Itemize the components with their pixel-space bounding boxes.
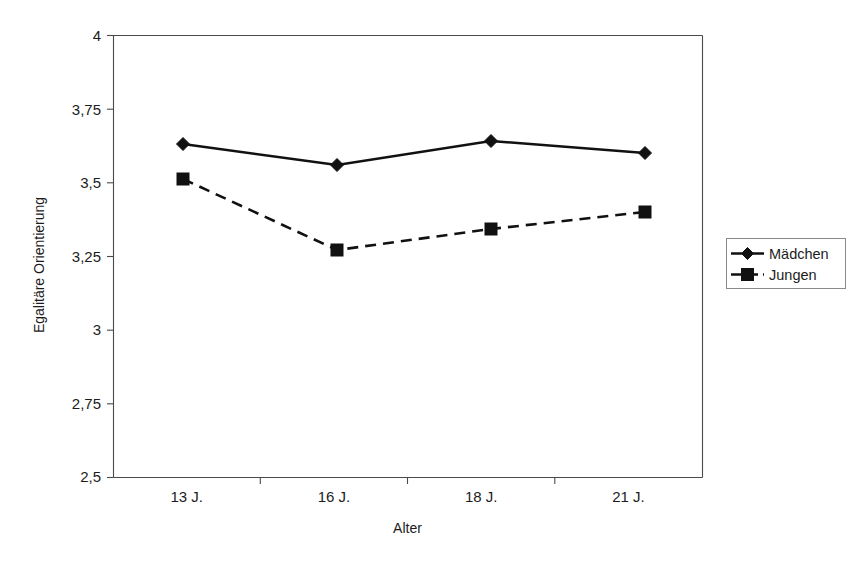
series-jungen xyxy=(177,173,651,256)
x-tick-label-18j: 18 J. xyxy=(465,488,498,505)
x-tick-marks xyxy=(260,478,555,485)
x-axis-title: Alter xyxy=(393,520,422,536)
y-tick-label-3: 3 xyxy=(93,321,101,338)
series-maedchen xyxy=(177,135,652,172)
y-tick-label-4: 4 xyxy=(93,27,101,44)
y-tick-label-3_25: 3,25 xyxy=(72,248,101,265)
y-tick-marks xyxy=(107,36,114,478)
y-tick-label-3_75: 3,75 xyxy=(72,101,101,118)
series-maedchen-point-0 xyxy=(177,138,190,151)
chart-page: 2,5 2,75 3 3,25 3,5 3,75 4 13 J. 16 J. 1… xyxy=(0,0,867,567)
x-tick-label-16j: 16 J. xyxy=(318,488,351,505)
x-tick-label-21j: 21 J. xyxy=(612,488,645,505)
legend-entry-jungen[interactable]: Jungen xyxy=(731,267,817,283)
series-jungen-point-2 xyxy=(485,223,497,235)
line-chart-figure: 2,5 2,75 3 3,25 3,5 3,75 4 13 J. 16 J. 1… xyxy=(0,0,867,567)
chart-svg: 2,5 2,75 3 3,25 3,5 3,75 4 13 J. 16 J. 1… xyxy=(0,0,867,567)
y-tick-label-2_5: 2,5 xyxy=(80,468,101,485)
series-maedchen-point-3 xyxy=(639,147,652,160)
legend-label-jungen: Jungen xyxy=(769,267,817,283)
series-jungen-point-0 xyxy=(177,173,189,185)
series-jungen-point-1 xyxy=(331,244,343,256)
chart-legend: Mädchen Jungen xyxy=(727,239,846,289)
y-axis-title: Egalitäre Orientierung xyxy=(31,197,47,333)
legend-label-maedchen: Mädchen xyxy=(769,246,829,262)
series-maedchen-line xyxy=(183,141,645,165)
series-jungen-point-3 xyxy=(639,206,651,218)
series-maedchen-point-2 xyxy=(485,135,498,148)
series-maedchen-point-1 xyxy=(331,159,344,172)
series-jungen-line xyxy=(183,179,645,250)
x-tick-label-13j: 13 J. xyxy=(170,488,203,505)
y-tick-label-3_5: 3,5 xyxy=(80,174,101,191)
legend-square-icon xyxy=(742,269,754,281)
y-tick-label-2_75: 2,75 xyxy=(72,395,101,412)
